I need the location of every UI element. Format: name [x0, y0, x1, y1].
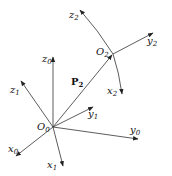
x2-axis — [113, 54, 122, 94]
x2-label: x2 — [107, 85, 118, 98]
z1-label: z1 — [9, 84, 20, 97]
x1-label: x1 — [47, 159, 57, 172]
p2-label: P2 — [71, 76, 84, 89]
z2-label: z2 — [68, 9, 79, 22]
p2-vector — [53, 55, 112, 127]
x1-axis — [53, 127, 63, 166]
y1-axis — [53, 107, 93, 127]
x0-label: x0 — [8, 143, 19, 156]
y0-axis — [53, 127, 138, 139]
y2-label: y2 — [146, 35, 158, 48]
coordinate-frames-diagram: z0 y0 x0 x1 z1 y1 z2 y2 x2 O0 O2 P2 — [0, 0, 172, 176]
y1-label: y1 — [87, 108, 98, 121]
origin0-label: O0 — [37, 121, 50, 134]
origin2-label: O2 — [96, 46, 109, 59]
y0-label: y0 — [129, 124, 141, 137]
z0-label: z0 — [41, 53, 52, 66]
